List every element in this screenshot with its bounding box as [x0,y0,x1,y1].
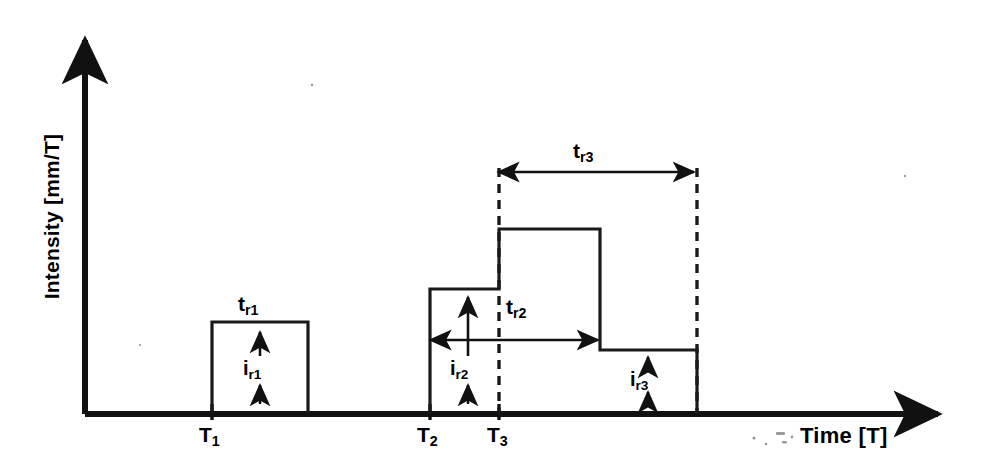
y-axis-title: Intensity [mm/T] [41,102,62,332]
tick-label-t2-sub: 2 [430,433,438,449]
tick-label-t3: T3 [487,424,508,445]
duration-label-tr1-base: t [238,292,245,315]
tick-label-t1-base: T [199,423,212,446]
duration-label-tr1-sub: r1 [245,302,259,318]
rainfall-hyetograph-figure: Intensity [mm/T] Time [T] T1 T2 T3 tr1 t… [0,0,981,473]
duration-label-tr2-base: t [506,295,513,318]
duration-label-tr2: tr2 [506,296,527,317]
duration-label-tr3-sub: r3 [580,149,594,165]
intensity-label-ir2: ir2 [450,358,468,378]
tick-label-t1-sub: 1 [212,433,220,449]
duration-label-tr3-base: t [573,139,580,162]
intensity-label-ir3-sub: r3 [636,378,649,393]
x-axis-title: Time [T] [800,425,888,447]
tick-label-t2-base: T [417,423,430,446]
intensity-label-ir3-base: i [630,368,636,390]
intensity-label-ir2-base: i [450,357,456,379]
intensity-label-ir1: ir1 [243,358,261,378]
intensity-label-ir3: ir3 [630,369,648,389]
tick-label-t3-base: T [487,423,500,446]
intensity-label-ir2-sub: r2 [456,367,469,382]
tick-label-t1: T1 [199,424,220,445]
scan-artifacts [139,84,906,446]
tick-label-t2: T2 [417,424,438,445]
duration-label-tr3: tr3 [573,140,594,161]
intensity-label-ir1-sub: r1 [249,367,262,382]
duration-label-tr2-sub: r2 [513,305,527,321]
duration-label-tr1: tr1 [238,293,259,314]
tick-label-t3-sub: 3 [500,433,508,449]
intensity-label-ir1-base: i [243,357,249,379]
figure-canvas [0,0,981,473]
pulse-block-2 [430,229,697,414]
